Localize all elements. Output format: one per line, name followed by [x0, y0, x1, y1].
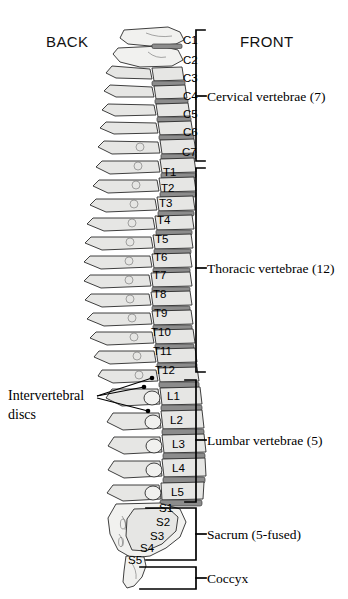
- region-label-cervical: Cervical vertebrae (7): [207, 89, 325, 104]
- callout-dot-disc-l1-l2: [142, 385, 147, 390]
- level-label-t3: T3: [159, 197, 172, 209]
- vertebra-c6-process: [100, 122, 158, 134]
- level-label-t7: T7: [153, 269, 166, 281]
- level-label-l3: L3: [172, 438, 185, 450]
- vertebra-t2-process: [93, 180, 159, 193]
- level-label-t10: T10: [151, 326, 171, 338]
- callout-line-1: Intervertebral: [8, 388, 84, 403]
- level-label-s4: S4: [140, 542, 155, 554]
- level-label-t5: T5: [155, 233, 168, 245]
- disc-t12-l1: [159, 382, 199, 388]
- vertebra-c3-body: [152, 67, 184, 81]
- level-label-l4: L4: [172, 462, 185, 474]
- vertebra-c4-process: [104, 85, 154, 97]
- vertebra-c5-process: [102, 104, 156, 116]
- region-label-coccyx: Coccyx: [207, 571, 248, 586]
- vertebra-t1-process: [96, 161, 160, 174]
- level-label-t6: T6: [154, 251, 167, 263]
- level-label-t4: T4: [157, 214, 171, 226]
- region-label-lumbar: Lumbar vertebrae (5): [207, 433, 322, 448]
- level-label-t12: T12: [155, 364, 175, 376]
- region-label-sacrum: Sacrum (5-fused): [207, 527, 301, 542]
- callout-dot-disc-t12-l1: [150, 376, 155, 381]
- level-label-t8: T8: [153, 288, 166, 300]
- vertebra-c1: [120, 27, 184, 46]
- level-label-l1: L1: [167, 390, 180, 402]
- level-label-s5: S5: [128, 554, 142, 566]
- spine-anatomy-diagram: BACK FRONT: [0, 0, 348, 599]
- level-label-t1: T1: [163, 166, 176, 178]
- level-label-l5: L5: [171, 486, 184, 498]
- level-label-s2: S2: [156, 516, 170, 528]
- front-orientation-label: FRONT: [240, 33, 294, 50]
- level-label-t11: T11: [153, 345, 172, 357]
- level-label-l2: L2: [170, 414, 183, 426]
- level-label-t2: T2: [161, 182, 174, 194]
- level-label-t9: T9: [154, 307, 167, 319]
- region-label-thoracic: Thoracic vertebrae (12): [207, 261, 334, 276]
- callout-line-2: discs: [8, 407, 36, 422]
- level-label-c7: C7: [182, 146, 197, 158]
- callout-dot-disc-l2-l3: [146, 409, 151, 414]
- back-orientation-label: BACK: [46, 33, 88, 50]
- level-label-s3: S3: [150, 530, 164, 542]
- vertebra-c7-process: [98, 141, 160, 154]
